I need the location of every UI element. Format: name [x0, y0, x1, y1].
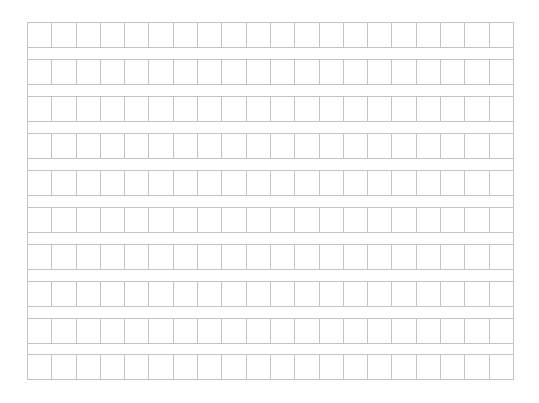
- grid-cell[interactable]: [271, 97, 295, 121]
- grid-cell[interactable]: [441, 23, 465, 47]
- grid-cell[interactable]: [344, 282, 368, 306]
- grid-cell[interactable]: [320, 245, 344, 269]
- grid-cell[interactable]: [417, 171, 441, 195]
- grid-cell[interactable]: [320, 355, 344, 379]
- grid-cell[interactable]: [174, 282, 198, 306]
- grid-cell[interactable]: [222, 208, 246, 232]
- grid-cell[interactable]: [344, 97, 368, 121]
- grid-cell[interactable]: [295, 208, 319, 232]
- grid-cell[interactable]: [101, 208, 125, 232]
- grid-cell[interactable]: [222, 171, 246, 195]
- grid-cell[interactable]: [28, 319, 52, 343]
- grid-cell[interactable]: [77, 245, 101, 269]
- grid-cell[interactable]: [295, 134, 319, 158]
- grid-cell[interactable]: [52, 245, 76, 269]
- grid-cell[interactable]: [320, 319, 344, 343]
- grid-cell[interactable]: [149, 23, 173, 47]
- grid-cell[interactable]: [222, 134, 246, 158]
- grid-cell[interactable]: [490, 23, 513, 47]
- grid-cell[interactable]: [52, 134, 76, 158]
- grid-cell[interactable]: [52, 282, 76, 306]
- grid-cell[interactable]: [465, 171, 489, 195]
- grid-cell[interactable]: [198, 245, 222, 269]
- grid-cell[interactable]: [465, 319, 489, 343]
- grid-cell[interactable]: [344, 319, 368, 343]
- grid-cell[interactable]: [295, 319, 319, 343]
- grid-cell[interactable]: [271, 134, 295, 158]
- grid-cell[interactable]: [149, 245, 173, 269]
- grid-cell[interactable]: [125, 319, 149, 343]
- grid-cell[interactable]: [149, 282, 173, 306]
- grid-cell[interactable]: [344, 171, 368, 195]
- grid-cell[interactable]: [344, 23, 368, 47]
- grid-cell[interactable]: [222, 245, 246, 269]
- grid-cell[interactable]: [417, 23, 441, 47]
- grid-cell[interactable]: [441, 319, 465, 343]
- grid-cell[interactable]: [125, 171, 149, 195]
- grid-cell[interactable]: [490, 60, 513, 84]
- grid-cell[interactable]: [101, 171, 125, 195]
- grid-cell[interactable]: [344, 208, 368, 232]
- grid-cell[interactable]: [125, 97, 149, 121]
- grid-cell[interactable]: [174, 319, 198, 343]
- grid-cell[interactable]: [417, 208, 441, 232]
- grid-cell[interactable]: [465, 23, 489, 47]
- grid-cell[interactable]: [392, 171, 416, 195]
- grid-cell[interactable]: [149, 319, 173, 343]
- grid-cell[interactable]: [247, 208, 271, 232]
- grid-cell[interactable]: [77, 208, 101, 232]
- grid-cell[interactable]: [174, 60, 198, 84]
- grid-cell[interactable]: [101, 355, 125, 379]
- grid-cell[interactable]: [198, 60, 222, 84]
- grid-cell[interactable]: [417, 319, 441, 343]
- grid-cell[interactable]: [392, 134, 416, 158]
- grid-cell[interactable]: [392, 97, 416, 121]
- grid-cell[interactable]: [174, 97, 198, 121]
- grid-cell[interactable]: [320, 171, 344, 195]
- grid-cell[interactable]: [28, 97, 52, 121]
- grid-cell[interactable]: [174, 355, 198, 379]
- grid-cell[interactable]: [271, 355, 295, 379]
- grid-cell[interactable]: [320, 60, 344, 84]
- grid-cell[interactable]: [52, 171, 76, 195]
- grid-cell[interactable]: [28, 134, 52, 158]
- grid-cell[interactable]: [441, 97, 465, 121]
- grid-cell[interactable]: [247, 282, 271, 306]
- grid-cell[interactable]: [368, 60, 392, 84]
- grid-cell[interactable]: [320, 23, 344, 47]
- grid-cell[interactable]: [490, 245, 513, 269]
- grid-cell[interactable]: [125, 355, 149, 379]
- grid-cell[interactable]: [149, 97, 173, 121]
- grid-cell[interactable]: [77, 319, 101, 343]
- grid-cell[interactable]: [222, 282, 246, 306]
- grid-cell[interactable]: [368, 355, 392, 379]
- grid-cell[interactable]: [52, 355, 76, 379]
- grid-cell[interactable]: [368, 245, 392, 269]
- grid-cell[interactable]: [465, 208, 489, 232]
- grid-cell[interactable]: [295, 23, 319, 47]
- grid-cell[interactable]: [77, 60, 101, 84]
- grid-cell[interactable]: [368, 134, 392, 158]
- grid-cell[interactable]: [222, 355, 246, 379]
- grid-cell[interactable]: [198, 319, 222, 343]
- grid-cell[interactable]: [465, 97, 489, 121]
- grid-cell[interactable]: [149, 355, 173, 379]
- grid-cell[interactable]: [441, 60, 465, 84]
- grid-cell[interactable]: [441, 208, 465, 232]
- grid-cell[interactable]: [101, 23, 125, 47]
- grid-cell[interactable]: [417, 60, 441, 84]
- grid-cell[interactable]: [174, 208, 198, 232]
- grid-cell[interactable]: [490, 208, 513, 232]
- grid-cell[interactable]: [465, 245, 489, 269]
- grid-cell[interactable]: [101, 97, 125, 121]
- grid-cell[interactable]: [490, 282, 513, 306]
- grid-cell[interactable]: [198, 171, 222, 195]
- grid-cell[interactable]: [198, 208, 222, 232]
- grid-cell[interactable]: [174, 134, 198, 158]
- grid-cell[interactable]: [52, 319, 76, 343]
- grid-cell[interactable]: [149, 171, 173, 195]
- grid-cell[interactable]: [490, 97, 513, 121]
- grid-cell[interactable]: [174, 245, 198, 269]
- grid-cell[interactable]: [490, 355, 513, 379]
- grid-cell[interactable]: [344, 134, 368, 158]
